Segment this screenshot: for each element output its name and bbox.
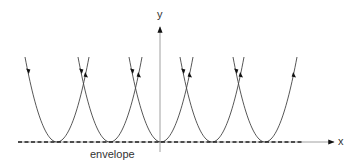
parabola-5 xyxy=(233,57,297,142)
x-axis-label: x xyxy=(338,135,344,147)
y-axis-label: y xyxy=(157,8,163,20)
parabola-1 xyxy=(25,57,89,142)
axes xyxy=(18,27,334,152)
envelope-diagram xyxy=(0,0,358,168)
parabola-family xyxy=(25,57,297,142)
parabola-4 xyxy=(180,57,244,142)
envelope-label: envelope xyxy=(90,148,135,160)
